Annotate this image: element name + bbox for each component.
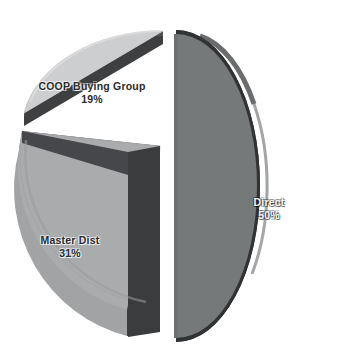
pie-chart: COOP Buying Group 19% Master Dist 31% Di… <box>0 0 354 354</box>
pie-slice-direct-left-face <box>174 34 178 338</box>
pie-slice-coop-buying-group[interactable] <box>24 31 163 126</box>
pie-slice-master-dist[interactable] <box>14 131 160 337</box>
pie-chart-graphic <box>0 0 354 354</box>
pie-slice-master-right-wall-front <box>128 146 160 337</box>
pie-slice-direct[interactable] <box>174 30 267 342</box>
